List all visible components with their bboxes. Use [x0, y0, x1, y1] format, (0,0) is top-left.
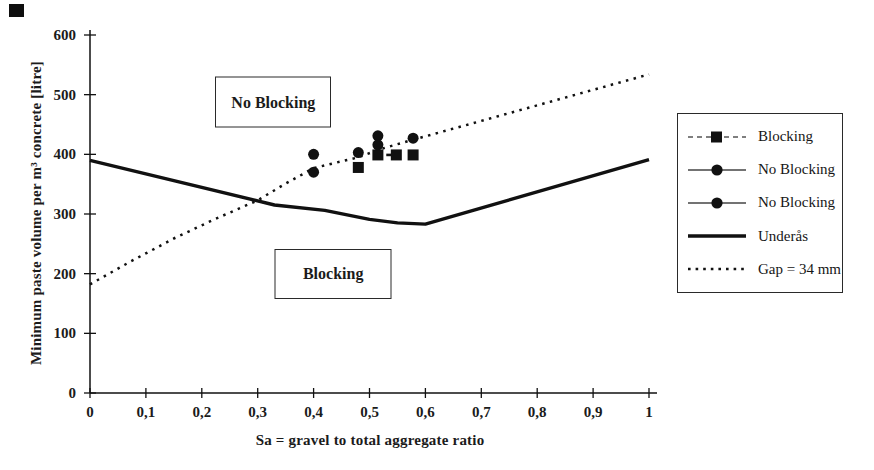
y-tick-label: 500	[54, 87, 77, 103]
x-tick-label: 1	[645, 404, 653, 420]
y-tick-label: 600	[54, 27, 77, 43]
data-point-circle	[353, 147, 364, 158]
no-blocking-circle-marker-icon	[687, 195, 747, 211]
data-point-circle	[372, 139, 383, 150]
legend-item-label: No Blocking	[758, 194, 835, 211]
legend-box: Blocking No Blocking No Blocking Underås	[677, 113, 843, 293]
x-tick-label: 0,7	[472, 404, 491, 420]
chart-figure: 010020030040050060000,10,20,30,40,50,60,…	[0, 0, 874, 470]
annotation-no-blocking: No Blocking	[215, 77, 331, 128]
y-axis-title: Minimum paste volume per m³ concrete [li…	[28, 61, 45, 365]
data-point-circle	[308, 167, 319, 178]
legend-item-label: Gap = 34 mm	[758, 261, 841, 278]
legend-item-underas: Underås	[687, 228, 838, 245]
x-tick-label: 0,8	[528, 404, 547, 420]
x-tick-label: 0,3	[248, 404, 267, 420]
x-tick-label: 0,9	[584, 404, 603, 420]
data-point-square	[353, 162, 364, 173]
x-tick-label: 0,6	[416, 404, 435, 420]
dotted-line-icon	[687, 261, 747, 277]
legend-item-label: Underås	[758, 228, 808, 245]
y-tick-label: 0	[69, 385, 77, 401]
x-tick-label: 0,4	[304, 404, 323, 420]
data-point-circle	[408, 133, 419, 144]
legend-item-no-blocking-1: No Blocking	[687, 161, 838, 178]
y-tick-label: 200	[54, 266, 77, 282]
legend-item-no-blocking-2: No Blocking	[687, 194, 838, 211]
legend-item-blocking: Blocking	[687, 128, 838, 145]
x-tick-label: 0,5	[360, 404, 379, 420]
underas-solid-curve	[90, 160, 649, 224]
data-point-square	[408, 149, 419, 160]
blocking-square-marker-icon	[687, 129, 747, 145]
legend-item-label: Blocking	[758, 128, 813, 145]
no-blocking-circle-marker-icon	[687, 162, 747, 178]
y-tick-label: 400	[54, 146, 77, 162]
annotation-blocking: Blocking	[275, 249, 392, 299]
data-point-circle	[308, 149, 319, 160]
y-tick-label: 100	[54, 325, 77, 341]
legend-item-label: No Blocking	[758, 161, 835, 178]
data-point-square	[391, 149, 402, 160]
x-axis-title: Sa = gravel to total aggregate ratio	[256, 432, 485, 449]
x-tick-label: 0	[86, 404, 94, 420]
x-tick-label: 0,1	[137, 404, 156, 420]
x-tick-label: 0,2	[192, 404, 211, 420]
data-point-square	[372, 149, 383, 160]
thick-solid-line-icon	[687, 228, 747, 244]
legend-item-gap-34mm: Gap = 34 mm	[687, 261, 838, 278]
y-tick-label: 300	[54, 206, 77, 222]
